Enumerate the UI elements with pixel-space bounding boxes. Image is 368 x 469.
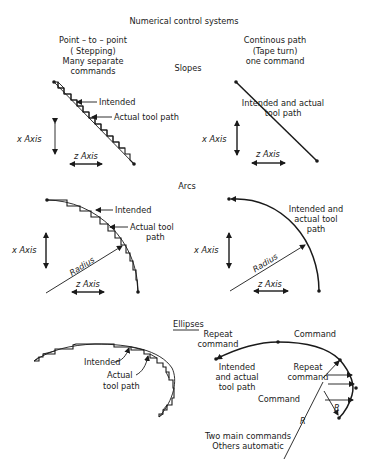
label-repeat-right: Repeat: [294, 362, 324, 372]
section-slopes: Slopes: [175, 63, 202, 73]
slope-continuous: Intended and actual tool path x Axis z A…: [201, 80, 324, 163]
ellipse-mid-point: [276, 340, 280, 344]
right-column-header: Continous path (Tape turn) one command: [244, 35, 306, 66]
label-repeat-command-right: command: [288, 372, 329, 382]
label-actual: Actual: [107, 370, 133, 380]
arc-start-point: [45, 198, 49, 202]
label-path: path: [146, 232, 165, 242]
left-header-line: Many separate: [63, 56, 124, 66]
label-actual-tool: Actual tool: [130, 222, 174, 232]
label-intended: Intended: [99, 97, 135, 107]
label-intended: Intended: [84, 357, 120, 367]
section-ellipses: Ellipses: [173, 319, 204, 329]
arc-start-point: [227, 197, 231, 201]
label-arc-actual: actual tool: [294, 214, 337, 224]
label-z-axis: z Axis: [255, 149, 281, 159]
section-arcs: Arcs: [178, 181, 196, 191]
label-arc-intended: Intended and: [289, 204, 343, 214]
ellipse-stepped: Intended Actual tool path: [34, 344, 175, 417]
arc-stepped: Intended Actual tool path Radius x Axis …: [11, 198, 174, 294]
label-intended-and-actual: Intended and actual: [242, 98, 324, 108]
label-ellipse-tool-path: tool path: [219, 382, 256, 392]
nc-systems-diagram: Numerical control systems Point – to – p…: [0, 0, 368, 469]
left-column-header: Point – to – point ( Stepping) Many sepa…: [59, 35, 128, 76]
ellipse-start-point: [214, 357, 218, 361]
label-others-automatic: Others automatic: [212, 441, 284, 451]
slope-stepped: Intended Actual tool path x Axis z Axis: [16, 80, 179, 166]
label-tool-path: tool path: [103, 381, 140, 391]
arc-continuous: Intended and actual tool path Radius x A…: [193, 197, 343, 293]
arc-end-point: [136, 290, 140, 294]
label-z-axis: z Axis: [75, 279, 101, 289]
arc-end-point: [317, 289, 321, 293]
label-tool-path: tool path: [265, 108, 302, 118]
slope-end-point: [315, 159, 319, 163]
ellipse-end-point: [337, 416, 341, 420]
label-repeat-command: command: [198, 339, 239, 349]
label-x-axis: x Axis: [11, 245, 37, 255]
label-repeat: Repeat: [204, 329, 234, 339]
label-command-top: Command: [294, 329, 336, 339]
actual-tool-path-arrow: [136, 356, 148, 375]
left-header-line: ( Stepping): [70, 46, 116, 56]
slope-start-point: [52, 80, 56, 84]
label-ellipse-intended: Intended: [219, 362, 255, 372]
label-z-axis: z Axis: [73, 151, 99, 161]
label-x-axis: x Axis: [193, 245, 219, 255]
label-ellipse-and-actual: and actual: [215, 372, 258, 382]
label-arc-path: path: [307, 224, 326, 234]
label-x-axis: x Axis: [201, 134, 227, 144]
left-header-line: Point – to – point: [59, 35, 128, 45]
label-radius: Radius: [67, 254, 96, 278]
ellipse-right-point: [354, 386, 358, 390]
label-intended: Intended: [115, 205, 151, 215]
label-x-axis: x Axis: [16, 134, 42, 144]
label-z-axis: z Axis: [257, 279, 283, 289]
slope-start-point: [234, 80, 238, 84]
label-r-small: R: [334, 403, 340, 413]
label-r-large: R: [300, 416, 306, 426]
label-two-main-commands: Two main commands: [204, 431, 291, 441]
right-header-line: one command: [246, 56, 305, 66]
diagram-title: Numerical control systems: [129, 16, 238, 26]
right-header-line: (Tape turn): [253, 46, 298, 56]
label-actual-tool-path: Actual tool path: [114, 112, 179, 122]
label-command-lower: Command: [258, 394, 300, 404]
ellipse-continuous: Repeat command Command Intended and actu…: [198, 329, 358, 459]
left-header-line: commands: [70, 66, 115, 76]
right-header-line: Continous path: [244, 35, 306, 45]
slope-end-point: [132, 162, 136, 166]
